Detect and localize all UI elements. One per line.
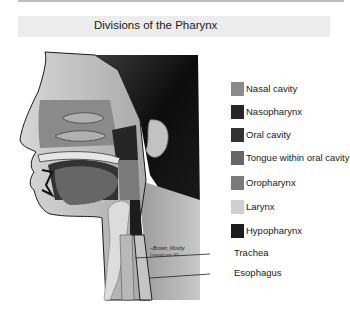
trachea-tube <box>120 235 134 300</box>
top-divider <box>18 0 344 2</box>
legend-swatch <box>231 200 244 214</box>
nasopharynx-region <box>112 125 138 160</box>
legend-label: Oropharynx <box>246 177 296 188</box>
legend-label: Nasal cavity <box>246 83 297 94</box>
callout-label: Trachea <box>234 247 269 258</box>
hypopharynx-region <box>130 200 142 236</box>
oropharynx-region <box>118 160 140 200</box>
legend-label: Nasopharynx <box>246 106 302 117</box>
legend-swatch <box>231 151 244 165</box>
legend-label: Larynx <box>246 201 275 212</box>
legend-swatch <box>231 105 244 119</box>
legend-label: Oral cavity <box>246 129 291 140</box>
title-bar: Divisions of the Pharynx <box>18 16 330 37</box>
legend-swatch <box>231 176 244 190</box>
legend-swatch <box>231 224 244 238</box>
callout-label: Esophagus <box>234 267 282 278</box>
legend-swatch <box>231 128 244 142</box>
figure-title: Divisions of the Pharynx <box>94 19 217 31</box>
legend-label: Tongue within oral cavity <box>246 152 350 163</box>
legend-label: Hypopharynx <box>246 225 302 236</box>
legend-swatch <box>231 82 244 96</box>
head-neck-cross-section-illustration: ~Brown_Mosby Copyright mm, MC <box>0 44 210 306</box>
